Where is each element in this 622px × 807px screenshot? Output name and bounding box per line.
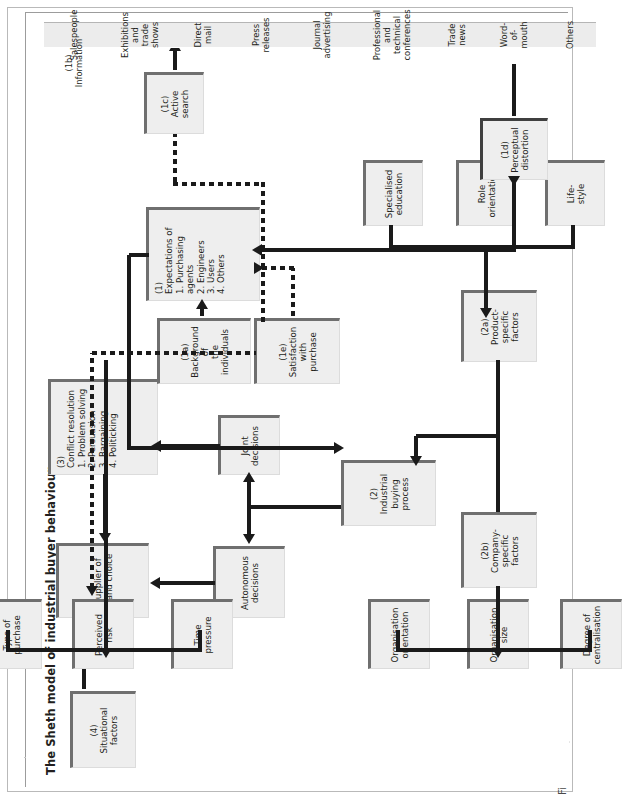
box-list-item: 2. Engineers bbox=[196, 240, 206, 294]
connector-information-to-distortion bbox=[512, 64, 516, 116]
information-item-word-of-mouth: Word-of-mouth bbox=[484, 22, 546, 48]
connector-spine-bottom bbox=[588, 630, 592, 652]
box-line2: distortion bbox=[520, 130, 530, 171]
connector-spine-bottom bbox=[571, 225, 575, 249]
connector-product-subfactors-to-2a bbox=[104, 360, 108, 652]
feedback-dotted-to-active-search bbox=[173, 134, 177, 182]
box-active-search: (1c) Active search bbox=[144, 72, 204, 134]
arrowhead-down bbox=[334, 442, 344, 454]
arrowhead-left bbox=[410, 456, 422, 466]
info-line1: Trade news bbox=[448, 24, 468, 47]
box-line1: Life- bbox=[566, 185, 576, 204]
connector-factors-to-process bbox=[416, 434, 498, 438]
information-label: (1b) Information bbox=[44, 50, 106, 76]
box-line2: process bbox=[400, 477, 410, 510]
box-perceptual-distortion: (1d) Perceptual distortion bbox=[480, 118, 548, 180]
connector-active-search-to-information bbox=[173, 48, 177, 70]
info-title: Information bbox=[75, 39, 85, 87]
information-item-journal-advertising: Journal advertising bbox=[292, 22, 354, 48]
feedback-dotted-1e-to-expectations bbox=[291, 268, 295, 316]
connector-buying-process-up bbox=[247, 505, 343, 509]
box-line1: Specialised bbox=[384, 170, 394, 219]
feedback-dotted-horizontal bbox=[90, 353, 94, 588]
box-line1: Product-specific bbox=[490, 296, 510, 358]
box-tag: (2) bbox=[369, 488, 379, 500]
box-joint-decisions: Joint decisions bbox=[218, 415, 280, 475]
page-title: The Sheth model of industrial buyer beha… bbox=[44, 467, 58, 775]
feedback-dotted-satisfaction-to-supplier bbox=[92, 351, 256, 355]
box-line2: factors bbox=[109, 716, 119, 746]
box-industrial-buying-process: (2) Industrial buying process bbox=[341, 460, 436, 526]
box-list-item: 3. Users bbox=[206, 259, 216, 294]
box-line2: with purchase bbox=[298, 324, 318, 380]
box-line2: search bbox=[180, 90, 190, 119]
box-specialised-education: Specialised education bbox=[363, 160, 423, 226]
box-expectations: (1) Expectations of 1. Purchasing agents… bbox=[146, 207, 260, 301]
box-title: Expectations of bbox=[164, 227, 174, 294]
info-line3: conferences bbox=[403, 10, 413, 61]
box-tag: (1d) bbox=[500, 141, 510, 159]
box-tag: (4) bbox=[89, 724, 99, 736]
box-line2: size bbox=[499, 627, 509, 644]
information-item-press-releases: Press releases bbox=[232, 22, 292, 48]
box-tag: (2b) bbox=[480, 542, 490, 560]
box-line1: Active bbox=[170, 91, 180, 118]
info-line2: advertising bbox=[323, 12, 333, 59]
box-tag: (1c) bbox=[160, 96, 170, 113]
info-line1: Press releases bbox=[252, 18, 272, 53]
info-line1: Others bbox=[566, 21, 576, 49]
diagram-canvas: The Sheth model of industrial buyer beha… bbox=[26, 13, 569, 788]
box-time-pressure: Time pressure bbox=[171, 599, 233, 669]
connector-spine-top bbox=[389, 225, 393, 249]
box-tag: (2a) bbox=[480, 318, 490, 335]
box-line1: Autonomous bbox=[240, 556, 250, 610]
arrowhead-left bbox=[100, 648, 112, 658]
information-item-others: Others bbox=[546, 22, 596, 48]
info-line1: Direct mail bbox=[194, 22, 214, 47]
feedback-dotted-1e-down bbox=[262, 266, 294, 270]
box-situational-factors: (4) Situational factors bbox=[70, 691, 136, 768]
connector-spine-top bbox=[6, 630, 10, 652]
box-company-specific-factors: (2b) Company-specific factors bbox=[461, 512, 537, 588]
arrowhead-right bbox=[243, 472, 255, 482]
box-title: Conflict resolution bbox=[66, 390, 76, 468]
information-item-professional-and-technical-conferences: Professional and technical conferences bbox=[354, 22, 432, 48]
box-line2: factors bbox=[510, 536, 520, 566]
box-list-item: 1. Purchasing agents bbox=[175, 216, 195, 294]
connector-distortion-up bbox=[260, 248, 514, 252]
connector-expectations-down-to-process bbox=[127, 446, 341, 450]
box-line1: Supplier of bbox=[93, 558, 103, 604]
box-line2: factors bbox=[510, 312, 520, 342]
connector-spine-top bbox=[396, 630, 400, 652]
connector-spine-bottom bbox=[198, 630, 202, 652]
info-line1: Exhibitions and bbox=[121, 12, 141, 58]
box-perceived-risk: Perceived risk bbox=[72, 599, 134, 669]
arrowhead-left bbox=[243, 534, 255, 544]
arrowhead-up bbox=[252, 244, 262, 256]
info-line1: Word-of-mouth bbox=[500, 21, 530, 48]
information-item-exhibitions-and-trade-shows: Exhibitions and trade shows bbox=[106, 22, 176, 48]
arrowhead-right bbox=[196, 299, 208, 309]
box-satisfaction-with-purchase: (1e) Satisfaction with purchase bbox=[254, 318, 340, 384]
box-line1: Company-specific bbox=[490, 518, 510, 584]
box-conflict-resolution: (3) Conflict resolution 1. Problem solvi… bbox=[48, 379, 158, 475]
box-list-item: 4. Others bbox=[216, 254, 226, 294]
connector-factors-into-process bbox=[414, 436, 418, 458]
box-list-item: 4. Politicking bbox=[108, 413, 118, 468]
box-line1: Role bbox=[477, 185, 487, 204]
box-product-specific-factors: (2a) Product-specific factors bbox=[461, 290, 537, 362]
box-line1: Perceptual bbox=[510, 127, 520, 172]
box-tag: (1) bbox=[154, 282, 164, 294]
box-line2: centralisation bbox=[592, 606, 602, 665]
arrowhead-up bbox=[150, 577, 160, 589]
info-line2: and technical bbox=[383, 10, 403, 61]
connector-individual-factors-to-1a bbox=[484, 247, 488, 309]
connector-company-subfactors-to-2b bbox=[496, 586, 500, 652]
box-line2: decisions bbox=[250, 563, 260, 603]
box-lifestyle: Life- style bbox=[545, 160, 605, 226]
box-line1: Industrial buying bbox=[379, 466, 399, 522]
connector-distortion-left bbox=[512, 178, 516, 252]
box-line1: Situational bbox=[99, 707, 109, 753]
box-tag: (1e) bbox=[278, 343, 288, 360]
